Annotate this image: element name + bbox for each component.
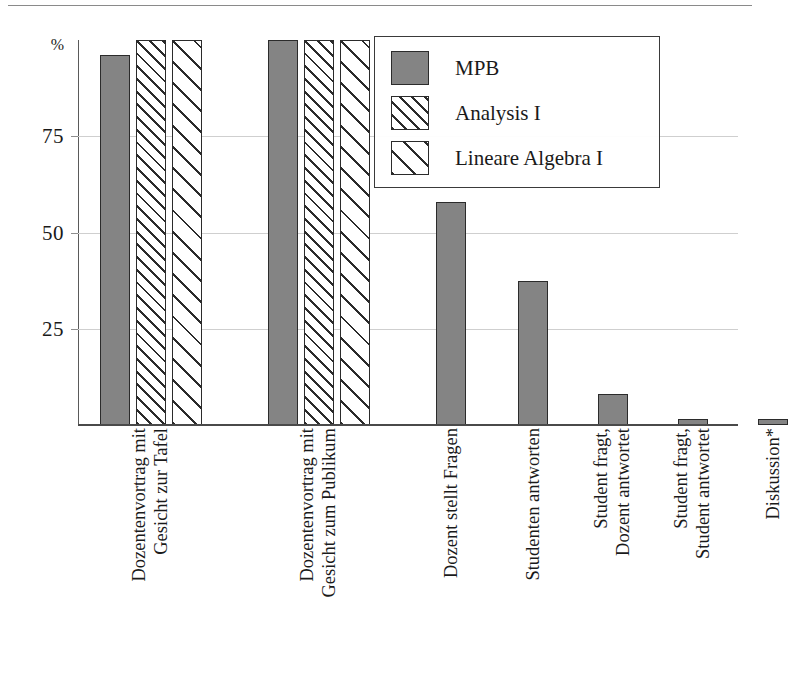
y-tick-mark-50 xyxy=(71,233,78,234)
x-category-label: Dozentenvortrag mitGesicht zur Tafel xyxy=(129,428,151,658)
x-category-label-line1: Dozent stellt Fragen xyxy=(441,428,462,658)
x-category-label-line1: Student fragt, xyxy=(591,428,612,658)
bar xyxy=(340,40,370,425)
bar xyxy=(758,419,788,425)
y-tick-label-25: 25 xyxy=(42,319,64,340)
y-axis-unit-label: % xyxy=(51,37,64,53)
legend-swatch-icon xyxy=(391,141,429,175)
x-axis-category-labels: Dozentenvortrag mitGesicht zur TafelDoze… xyxy=(78,428,738,668)
bar xyxy=(598,394,628,425)
legend-item: Lineare Algebra I xyxy=(391,139,603,177)
page-edge-artifact xyxy=(8,5,752,6)
x-axis-line xyxy=(78,424,738,426)
legend-label: Lineare Algebra I xyxy=(455,148,603,169)
x-category-label: Dozentenvortrag mitGesicht zum Publikum xyxy=(297,428,319,658)
x-category-label: Dozent stellt Fragen xyxy=(441,428,463,658)
bar xyxy=(268,40,298,425)
y-tick-mark-75 xyxy=(71,136,78,137)
bar xyxy=(436,202,466,425)
legend-item: MPB xyxy=(391,49,499,87)
legend-label: Analysis I xyxy=(455,103,541,124)
y-axis-labels: % 75 50 25 xyxy=(14,40,64,425)
bar xyxy=(304,40,334,425)
legend-item: Analysis I xyxy=(391,94,541,132)
bar xyxy=(518,281,548,425)
legend-swatch-icon xyxy=(391,51,429,85)
y-tick-label-75: 75 xyxy=(42,126,64,147)
x-category-label-line1: Dozentenvortrag mit xyxy=(129,428,150,658)
x-category-label-line1: Diskussion* xyxy=(763,428,784,658)
legend-label: MPB xyxy=(455,58,499,79)
x-category-label: Student fragt,Student antwortet xyxy=(671,428,693,658)
x-category-label-line2: Gesicht zur Tafel xyxy=(151,428,172,658)
x-category-label: Studenten antworten xyxy=(523,428,545,658)
x-category-label-line2: Dozent antwortet xyxy=(613,428,634,658)
x-category-label-line1: Student fragt, xyxy=(671,428,692,658)
bar xyxy=(172,40,202,425)
y-tick-mark-25 xyxy=(71,329,78,330)
x-category-label: Diskussion* xyxy=(763,428,785,658)
bar xyxy=(136,40,166,425)
bar xyxy=(100,55,130,425)
y-tick-label-50: 50 xyxy=(42,223,64,244)
legend: MPBAnalysis ILineare Algebra I xyxy=(374,36,660,188)
x-category-label-line2: Student antwortet xyxy=(693,428,714,658)
x-category-label-line2: Gesicht zum Publikum xyxy=(319,428,340,658)
legend-swatch-icon xyxy=(391,96,429,130)
x-category-label-line1: Dozentenvortrag mit xyxy=(297,428,318,658)
x-category-label-line1: Studenten antworten xyxy=(523,428,544,658)
x-category-label: Student fragt,Dozent antwortet xyxy=(591,428,613,658)
